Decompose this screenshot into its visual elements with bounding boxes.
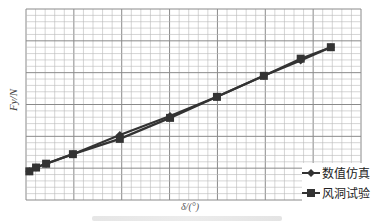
figure-caption-illegible	[92, 216, 282, 221]
legend-item-simulation: 数值仿真	[302, 165, 370, 181]
y-axis-label: Fy/N	[7, 85, 27, 115]
legend: 数值仿真 风洞试验	[302, 163, 364, 203]
square-marker-icon	[260, 72, 268, 80]
square-marker-icon	[297, 55, 305, 63]
square-marker-icon	[42, 160, 50, 168]
square-marker-icon	[116, 135, 124, 143]
x-axis-label: δ/(°)	[160, 201, 220, 212]
square-marker-icon	[166, 114, 174, 122]
square-marker-icon	[32, 164, 40, 172]
square-marker-icon	[69, 150, 77, 158]
square-marker-icon	[327, 43, 335, 51]
square-marker-icon	[213, 93, 221, 101]
square-marker-icon	[302, 187, 320, 199]
legend-item-wind-tunnel: 风洞试验	[302, 185, 370, 201]
diamond-marker-icon	[302, 167, 320, 179]
